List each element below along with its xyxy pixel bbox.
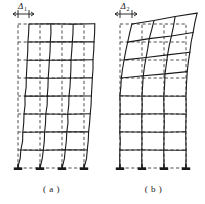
deformation-figure: Δ1 Δ2 ( a ) ( b ) — [0, 0, 205, 204]
caption-b: ( b ) — [102, 184, 205, 194]
deformed-beam — [21, 150, 87, 151]
deformed-frame — [18, 24, 95, 168]
figure-canvas: Δ1 Δ2 — [0, 0, 205, 204]
drift-label-subscript: 1 — [24, 6, 27, 12]
deformed-frame — [120, 13, 197, 168]
caption-a: ( a ) — [0, 184, 103, 194]
drift-label: Δ1 — [17, 1, 27, 12]
deformed-beam — [121, 72, 187, 78]
deformed-beam — [132, 13, 197, 24]
drift-label: Δ2 — [120, 1, 130, 12]
deformed-beam — [27, 60, 93, 61]
deformed-beam — [128, 32, 193, 42]
deformed-beam — [120, 132, 186, 133]
panel-a-shear-mode: Δ1 — [13, 1, 95, 170]
support-group — [116, 164, 190, 171]
deformed-column — [142, 21, 154, 169]
deformed-column — [164, 17, 175, 168]
drift-label-subscript: 2 — [126, 6, 129, 12]
deformed-beam — [124, 52, 190, 60]
deformed-column — [186, 13, 197, 168]
support-group — [14, 164, 88, 171]
panel-b-flexural-mode: Δ2 — [115, 1, 197, 170]
